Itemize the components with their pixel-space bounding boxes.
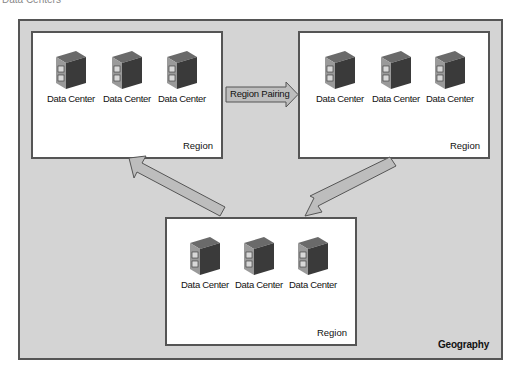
- arrows-layer: [0, 0, 521, 383]
- arrow-to-left-region: [129, 156, 225, 216]
- arrow-to-bottom-region: [305, 157, 396, 216]
- region-pairing-label: Region Pairing: [230, 88, 290, 99]
